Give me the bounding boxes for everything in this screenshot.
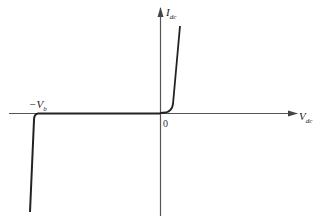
reverse-breakdown-curve [30,114,160,213]
breakdown-voltage-label: −Vb [29,98,47,113]
y-axis-label: Idc [165,6,177,21]
diode-iv-diagram: Idc Vdc 0 −Vb [0,0,323,224]
x-axis-label: Vdc [299,110,313,125]
origin-label: 0 [163,118,168,129]
forward-bias-curve [160,26,180,113]
